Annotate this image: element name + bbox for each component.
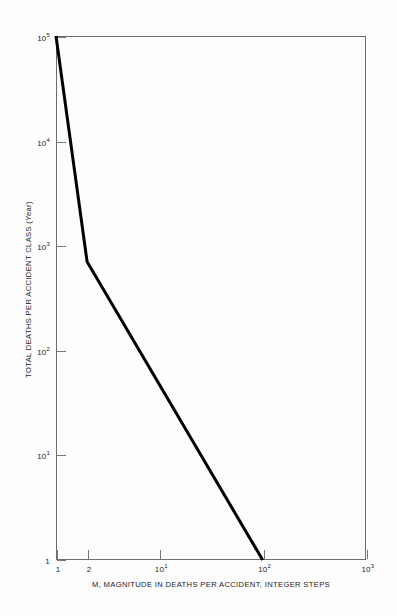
x-tick-label-1e2: 102: [258, 565, 271, 574]
x-axis-title: M, MAGNITUDE IN DEATHS PER ACCIDENT, INT…: [56, 580, 366, 589]
figure-canvas: 105 104 103 102 101 1 1 2 101 102: [0, 0, 397, 616]
plot-frame: 105 104 103 102 101 1 1 2 101 102: [56, 36, 366, 560]
x-tick-2: 2: [88, 550, 89, 559]
y-tick-label-1e2: 102: [37, 347, 50, 356]
x-tick-label-2: 2: [87, 565, 92, 574]
x-tick-label-1e3: 103: [361, 565, 374, 574]
y-tick-label-1e0: 1: [45, 557, 50, 566]
y-tick-label-1e4: 104: [37, 138, 50, 147]
x-tick-1e1: 101: [160, 550, 161, 559]
x-tick-label-1: 1: [56, 565, 61, 574]
y-tick-1e2: 102: [57, 351, 66, 352]
x-tick-1: 1: [57, 550, 58, 559]
y-tick-1e0: 1: [57, 560, 66, 561]
y-tick-1e3: 103: [57, 246, 66, 247]
y-tick-label-1e3: 103: [37, 243, 50, 252]
x-tick-1e2: 102: [264, 550, 265, 559]
y-tick-1e1: 101: [57, 455, 66, 456]
x-tick-1e3: 103: [367, 550, 368, 559]
y-tick-label-1e5: 105: [37, 34, 50, 43]
y-tick-label-1e1: 101: [37, 452, 50, 461]
y-tick-1e5: 105: [57, 37, 66, 38]
y-axis-title: TOTAL DEATHS PER ACCIDENT CLASS (Year): [24, 180, 33, 400]
x-tick-label-1e1: 101: [155, 565, 168, 574]
y-tick-1e4: 104: [57, 142, 66, 143]
